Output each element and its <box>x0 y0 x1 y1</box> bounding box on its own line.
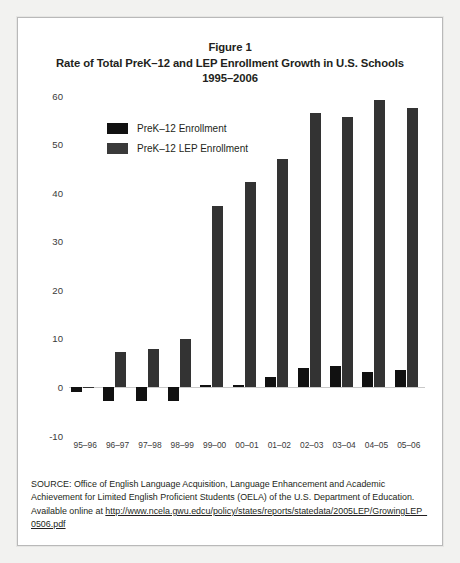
x-tick-label: 96–97 <box>101 440 133 450</box>
figure-page: Figure 1 Rate of Total PreK–12 and LEP E… <box>0 0 460 563</box>
legend-label-prek12-lep: PreK–12 LEP Enrollment <box>137 143 248 154</box>
legend-swatch-prek12 <box>107 123 128 134</box>
bar-prek12-lep <box>245 182 256 387</box>
figure-inner: Figure 1 Rate of Total PreK–12 and LEP E… <box>18 18 442 545</box>
bar-prek12 <box>330 366 341 387</box>
x-tick-label: 01–02 <box>263 440 295 450</box>
bar-prek12-lep <box>277 159 288 387</box>
bar-group <box>296 96 328 436</box>
bar-group <box>263 96 295 436</box>
bar-group <box>393 96 425 436</box>
x-tick-label: 99–00 <box>198 440 230 450</box>
legend-swatch-prek12-lep <box>107 143 128 154</box>
legend-item: PreK–12 Enrollment <box>107 123 248 134</box>
bar-prek12-lep <box>83 387 94 389</box>
x-tick-label: 02–03 <box>296 440 328 450</box>
title-line-3: 1995–2006 <box>31 71 429 87</box>
bar-prek12-lep <box>148 349 159 387</box>
bar-prek12 <box>233 385 244 387</box>
x-tick-label: 97–98 <box>134 440 166 450</box>
y-tick-label: 0 <box>58 381 63 392</box>
bar-prek12 <box>395 370 406 387</box>
bar-prek12-lep <box>180 339 191 387</box>
bar-prek12 <box>265 377 276 387</box>
bar-group <box>69 96 101 436</box>
source-note: SOURCE: Office of English Language Acqui… <box>31 478 429 531</box>
y-tick-label: -10 <box>49 430 63 441</box>
bar-prek12-lep <box>374 100 385 387</box>
y-tick-label: 50 <box>52 139 63 150</box>
legend-label-prek12: PreK–12 Enrollment <box>137 123 227 134</box>
y-tick-label: 20 <box>52 284 63 295</box>
bar-prek12 <box>136 387 147 402</box>
chart-area: -100102030405060 95–9696–9797–9898–9999–… <box>31 96 429 448</box>
bar-prek12-lep <box>407 108 418 387</box>
bar-prek12-lep <box>342 117 353 387</box>
bar-prek12 <box>168 387 179 402</box>
title-line-2: Rate of Total PreK–12 and LEP Enrollment… <box>31 56 429 72</box>
title-line-1: Figure 1 <box>31 40 429 56</box>
y-tick-label: 60 <box>52 90 63 101</box>
figure-title: Figure 1 Rate of Total PreK–12 and LEP E… <box>31 40 429 87</box>
chart-legend: PreK–12 Enrollment PreK–12 LEP Enrollmen… <box>107 123 248 163</box>
x-tick-label: 04–05 <box>360 440 392 450</box>
bar-prek12-lep <box>310 113 321 386</box>
y-tick-label: 40 <box>52 187 63 198</box>
bar-group <box>328 96 360 436</box>
x-tick-label: 00–01 <box>231 440 263 450</box>
legend-item: PreK–12 LEP Enrollment <box>107 143 248 154</box>
bar-prek12 <box>298 368 309 387</box>
bar-prek12 <box>200 385 211 387</box>
bar-group <box>360 96 392 436</box>
x-tick-label: 05–06 <box>393 440 425 450</box>
x-tick-label: 98–99 <box>166 440 198 450</box>
x-tick-label: 95–96 <box>69 440 101 450</box>
bar-prek12-lep <box>115 352 126 387</box>
bar-prek12 <box>362 372 373 387</box>
y-tick-label: 10 <box>52 333 63 344</box>
bar-prek12 <box>103 387 114 402</box>
bar-prek12-lep <box>212 206 223 387</box>
bar-prek12 <box>71 387 82 392</box>
x-tick-label: 03–04 <box>328 440 360 450</box>
y-tick-label: 30 <box>52 236 63 247</box>
x-axis: 95–9696–9797–9898–9999–0000–0101–0202–03… <box>69 440 425 450</box>
figure-frame: Figure 1 Rate of Total PreK–12 and LEP E… <box>17 17 443 546</box>
